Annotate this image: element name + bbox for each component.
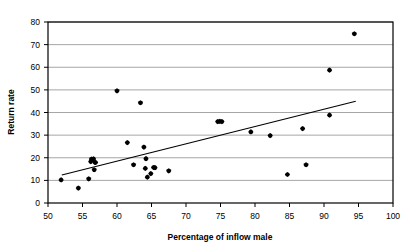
y-tick-label: 0: [35, 198, 40, 208]
y-tick-label: 60: [31, 62, 41, 72]
x-tick-label: 60: [112, 211, 122, 221]
chart-figure: 50556065707580859095100 0102030405060708…: [0, 0, 419, 248]
x-tick-label: 55: [78, 211, 88, 221]
x-tick-label: 90: [319, 211, 329, 221]
y-tick-label: 70: [31, 40, 41, 50]
x-tick-label: 100: [386, 211, 400, 221]
x-tick-label: 80: [250, 211, 260, 221]
x-axis-title: Percentage of inflow male: [168, 232, 273, 242]
x-tick-label: 85: [285, 211, 295, 221]
x-tick-label: 65: [147, 211, 157, 221]
x-tick-label: 70: [181, 211, 191, 221]
y-tick-label: 30: [31, 130, 41, 140]
y-axis-title: Return rate: [6, 89, 16, 135]
x-tick-label: 75: [216, 211, 226, 221]
x-tick-label: 50: [43, 211, 53, 221]
scatter-plot: 50556065707580859095100 0102030405060708…: [0, 0, 419, 248]
x-tick-label: 95: [354, 211, 364, 221]
y-axis-tick-labels: 01020304050607080: [31, 17, 41, 208]
y-tick-label: 50: [31, 85, 41, 95]
y-tick-label: 80: [31, 17, 41, 27]
y-tick-label: 20: [31, 153, 41, 163]
y-tick-label: 10: [31, 175, 41, 185]
y-tick-label: 40: [31, 108, 41, 118]
